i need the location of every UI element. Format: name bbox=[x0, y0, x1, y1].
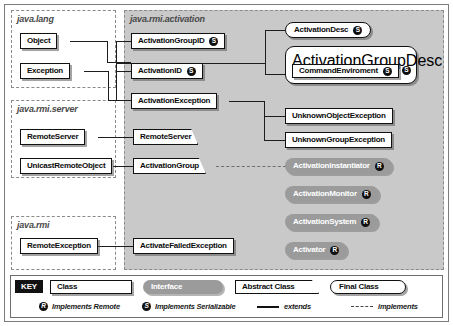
node-label: ActivationMonitor bbox=[293, 190, 357, 198]
edge-trunk-to-unknownobject bbox=[264, 116, 285, 117]
node-activationsystem[interactable]: ActivationSystem R bbox=[285, 214, 378, 230]
node-activator[interactable]: Activator R bbox=[285, 242, 347, 258]
edge-unknown-trunk bbox=[264, 101, 265, 141]
edge-unicast-to-activationgroup bbox=[113, 166, 134, 167]
node-label: ActivationGroup bbox=[140, 162, 199, 170]
node-label: ActivationSystem bbox=[293, 218, 356, 226]
node-label: UnknownObjectException bbox=[292, 112, 386, 120]
node-object[interactable]: Object bbox=[20, 33, 57, 49]
legend-swatch-label: Abstract Class bbox=[242, 283, 295, 291]
node-activationid[interactable]: ActivationID S bbox=[131, 63, 203, 79]
legend-swatch-abstract-class: Abstract Class bbox=[235, 280, 319, 294]
node-unknowngroupexception[interactable]: UnknownGroupException bbox=[285, 132, 392, 148]
remote-badge-icon: R bbox=[330, 246, 339, 255]
serializable-badge-icon: S bbox=[187, 67, 196, 76]
node-activationgroup[interactable]: ActivationGroup bbox=[133, 158, 206, 174]
legend-swatch-interface: Interface bbox=[143, 280, 223, 294]
legend-note-extends: extends bbox=[257, 302, 311, 311]
legend-note-implements-remote: R Implements Remote bbox=[39, 302, 120, 311]
remote-badge-icon: R bbox=[39, 302, 48, 311]
serializable-badge-icon: S bbox=[402, 66, 411, 75]
node-label: Activator bbox=[293, 246, 325, 254]
node-commandenviroment[interactable]: CommandEnviroment S bbox=[292, 64, 399, 78]
node-unicastremoteobject[interactable]: UnicastRemoteObject bbox=[20, 158, 112, 174]
node-activationgroupid[interactable]: ActivationGroupID S bbox=[131, 33, 225, 49]
node-unknownobjectexception[interactable]: UnknownObjectException bbox=[285, 108, 393, 124]
edge-trunk-to-activationid bbox=[116, 71, 132, 72]
edge-right-trunk-upper bbox=[265, 30, 266, 75]
node-exception[interactable]: Exception bbox=[20, 63, 70, 79]
node-label: ActivationDesc bbox=[294, 26, 348, 34]
node-remoteserver-abstract[interactable]: RemoteServer bbox=[133, 129, 198, 145]
legend-swatch-label: Class bbox=[57, 283, 77, 291]
node-label: Exception bbox=[27, 67, 63, 75]
edge-object-trunk bbox=[70, 41, 108, 42]
edge-trunk-to-groupid bbox=[116, 41, 132, 42]
package-label-java-rmi-activation: java.rmi.activation bbox=[130, 14, 205, 24]
solid-line-icon bbox=[257, 306, 279, 308]
edge-object-down bbox=[107, 41, 108, 63]
node-activationinstantiator[interactable]: ActivationInstantiator R bbox=[285, 158, 392, 174]
node-remoteserver-pkg[interactable]: RemoteServer bbox=[20, 129, 85, 145]
legend-swatch-label: Final Class bbox=[339, 283, 379, 291]
serializable-badge-icon: S bbox=[353, 26, 362, 35]
node-label: Object bbox=[27, 37, 50, 45]
node-label: UnknownGroupException bbox=[292, 136, 385, 144]
node-label: ActivateFailedException bbox=[140, 242, 227, 250]
edge-exception-down bbox=[108, 71, 109, 101]
serializable-badge-icon: S bbox=[209, 37, 218, 46]
legend-note-implements-serializable: S Implements Serializable bbox=[142, 302, 235, 311]
legend-swatch-class: Class bbox=[50, 280, 132, 294]
legend-note-text: Implements Remote bbox=[52, 302, 120, 311]
edge-trunk-to-activationexception bbox=[116, 100, 132, 101]
legend-key-tag: KEY bbox=[15, 280, 43, 293]
serializable-badge-icon: S bbox=[383, 67, 392, 76]
edge-implements-activationinstantiator bbox=[216, 166, 286, 167]
node-label: UnicastRemoteObject bbox=[27, 162, 105, 170]
remote-badge-icon: R bbox=[375, 162, 384, 171]
package-label-java-rmi: java.rmi bbox=[17, 220, 49, 230]
edge-trunk-to-activationdesc bbox=[265, 30, 285, 31]
edge-remoteserver bbox=[98, 137, 134, 138]
node-label: ActivationException bbox=[138, 97, 210, 105]
diagram-canvas: java.rmi.activation java.lang java.rmi.s… bbox=[0, 0, 453, 326]
legend-panel: KEY Class Interface Abstract Class Final… bbox=[10, 275, 443, 318]
legend-note-implements: implements bbox=[351, 302, 418, 311]
node-label: RemoteServer bbox=[27, 133, 78, 141]
serializable-badge-icon: S bbox=[142, 302, 151, 311]
node-label: ActivationID bbox=[138, 67, 182, 75]
package-label-java-lang: java.lang bbox=[17, 14, 54, 24]
edge-exception-to-activationexception bbox=[108, 100, 118, 101]
edge-activationexception-out bbox=[229, 101, 265, 102]
edge-trunk-to-unknowngroup bbox=[264, 140, 285, 141]
node-label: CommandEnviroment bbox=[299, 67, 378, 75]
node-activationmonitor[interactable]: ActivationMonitor R bbox=[285, 186, 379, 202]
node-label: ActivationGroupID bbox=[138, 37, 204, 45]
dashed-line-icon bbox=[351, 306, 373, 307]
legend-note-text: Implements Serializable bbox=[155, 302, 235, 311]
legend-note-text: implements bbox=[378, 302, 418, 311]
edge-trunk-to-commandenviroment bbox=[265, 74, 285, 75]
legend-swatch-label: Interface bbox=[151, 283, 182, 291]
edge-remoteexception-to-activatefailed bbox=[98, 246, 134, 247]
node-label: RemoteServer bbox=[140, 133, 191, 141]
node-remoteexception[interactable]: RemoteException bbox=[20, 238, 98, 254]
edge-exception-trunk bbox=[84, 71, 109, 72]
node-activationgroupdesc[interactable]: ActivationGroupDesc CommandEnviroment S … bbox=[285, 46, 417, 84]
node-activatefailedexception[interactable]: ActivateFailedException bbox=[133, 238, 234, 254]
remote-badge-icon: R bbox=[361, 218, 370, 227]
node-label: RemoteException bbox=[27, 242, 91, 250]
package-label-java-rmi-server: java.rmi.server bbox=[17, 104, 78, 114]
node-activationexception[interactable]: ActivationException bbox=[131, 93, 217, 109]
node-label: ActivationInstantiator bbox=[293, 162, 370, 170]
remote-badge-icon: R bbox=[362, 190, 371, 199]
legend-swatch-final-class: Final Class bbox=[330, 280, 406, 294]
legend-note-text: extends bbox=[284, 302, 311, 311]
node-activationdesc[interactable]: ActivationDesc S bbox=[285, 22, 371, 38]
